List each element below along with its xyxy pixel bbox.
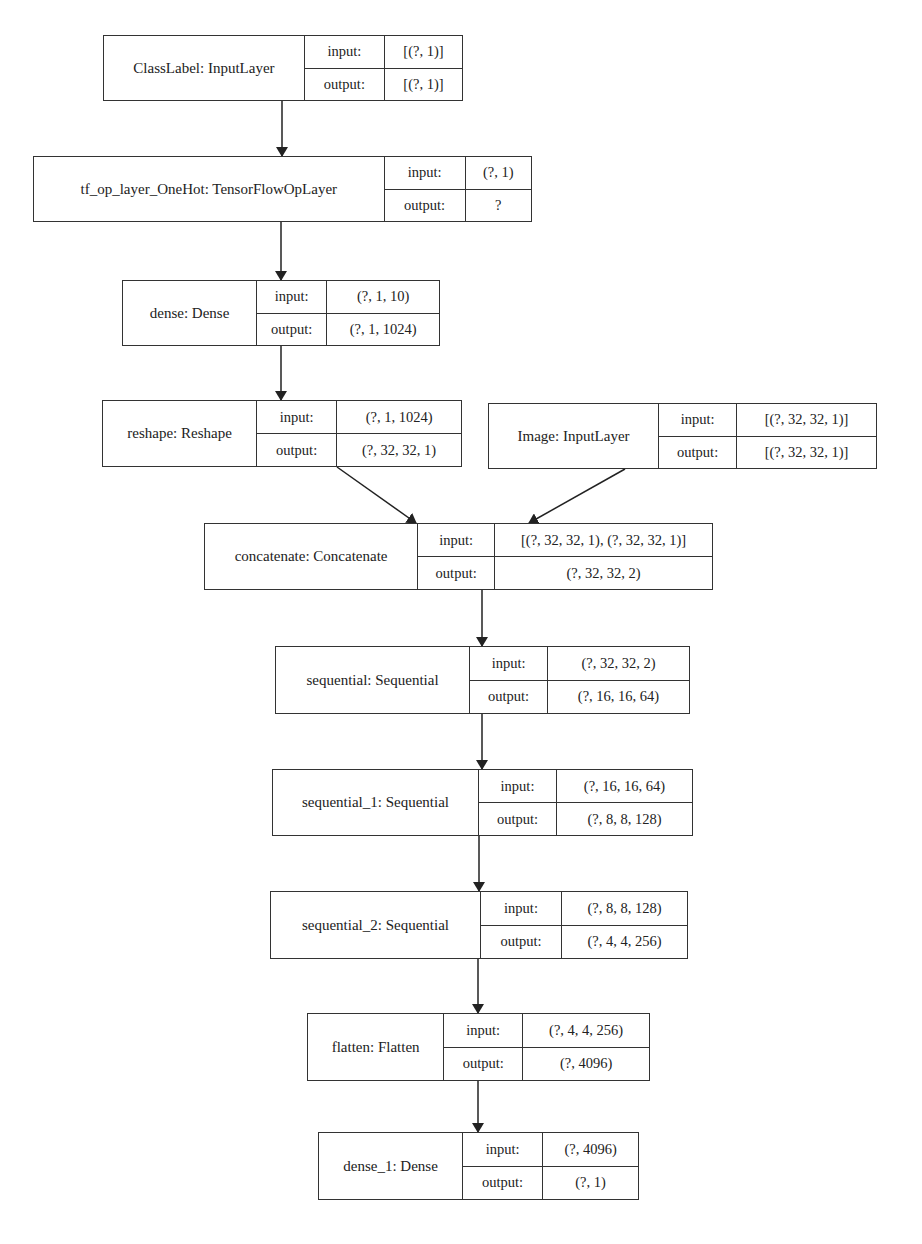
- output-label: output:: [257, 314, 327, 346]
- output-shape: (?, 1, 1024): [327, 314, 439, 346]
- layer-io-table: input: (?, 16, 16, 64) output: (?, 8, 8,…: [479, 770, 692, 835]
- output-label: output:: [470, 681, 548, 714]
- layer-io-table: input: (?, 1, 10) output: (?, 1, 1024): [257, 281, 439, 345]
- layer-io-table: input: (?, 4, 4, 256) output: (?, 4096): [444, 1014, 649, 1080]
- input-shape: [(?, 32, 32, 1)]: [737, 404, 876, 436]
- layer-node-sequential_2: sequential_2: Sequential input: (?, 8, 8…: [270, 891, 688, 959]
- input-row: input: [(?, 32, 32, 1)]: [659, 404, 876, 436]
- layer-node-dense_1: dense_1: Dense input: (?, 4096) output: …: [318, 1132, 639, 1200]
- input-label: input:: [481, 892, 562, 925]
- layer-name: ClassLabel: InputLayer: [104, 36, 305, 100]
- input-label: input:: [305, 36, 385, 68]
- layer-name: sequential_1: Sequential: [273, 770, 479, 835]
- output-shape: [(?, 32, 32, 1)]: [737, 437, 876, 469]
- input-label: input:: [257, 281, 327, 313]
- output-shape: (?, 8, 8, 128): [557, 803, 692, 835]
- input-label: input:: [659, 404, 737, 436]
- layer-node-image: Image: InputLayer input: [(?, 32, 32, 1)…: [488, 403, 877, 469]
- input-row: input: (?, 32, 32, 2): [470, 647, 689, 680]
- output-shape: (?, 4096): [523, 1048, 649, 1081]
- output-shape: (?, 32, 32, 2): [495, 557, 712, 589]
- output-label: output:: [385, 190, 466, 222]
- output-row: output: ?: [385, 189, 531, 222]
- input-row: input: [(?, 32, 32, 1), (?, 32, 32, 1)]: [418, 524, 712, 556]
- output-shape: (?, 32, 32, 1): [337, 434, 461, 466]
- input-shape: (?, 8, 8, 128): [562, 892, 687, 925]
- input-row: input: (?, 1, 10): [257, 281, 439, 313]
- input-shape: [(?, 1)]: [385, 36, 462, 68]
- layer-name: dense: Dense: [123, 281, 257, 345]
- input-shape: [(?, 32, 32, 1), (?, 32, 32, 1)]: [495, 524, 712, 556]
- input-row: input: (?, 16, 16, 64): [479, 770, 692, 802]
- input-shape: (?, 16, 16, 64): [557, 770, 692, 802]
- input-row: input: (?, 4, 4, 256): [444, 1014, 649, 1047]
- layer-io-table: input: [(?, 32, 32, 1)] output: [(?, 32,…: [659, 404, 876, 468]
- layer-node-onehot: tf_op_layer_OneHot: TensorFlowOpLayer in…: [33, 156, 532, 222]
- layer-name: concatenate: Concatenate: [205, 524, 418, 589]
- layer-node-classlabel: ClassLabel: InputLayer input: [(?, 1)] o…: [103, 35, 463, 101]
- layer-node-sequential: sequential: Sequential input: (?, 32, 32…: [275, 646, 690, 714]
- output-row: output: (?, 16, 16, 64): [470, 680, 689, 714]
- layer-io-table: input: (?, 1) output: ?: [385, 157, 531, 221]
- layer-io-table: input: [(?, 32, 32, 1), (?, 32, 32, 1)] …: [418, 524, 712, 589]
- layer-io-table: input: (?, 8, 8, 128) output: (?, 4, 4, …: [481, 892, 687, 958]
- input-label: input:: [479, 770, 557, 802]
- output-label: output:: [463, 1167, 543, 1200]
- output-shape: ?: [466, 190, 531, 222]
- layer-io-table: input: (?, 1, 1024) output: (?, 32, 32, …: [257, 401, 461, 466]
- layer-node-sequential_1: sequential_1: Sequential input: (?, 16, …: [272, 769, 693, 836]
- input-shape: (?, 32, 32, 2): [548, 647, 689, 680]
- layer-node-dense: dense: Dense input: (?, 1, 10) output: (…: [122, 280, 440, 346]
- output-shape: (?, 16, 16, 64): [548, 681, 689, 714]
- output-row: output: [(?, 1)]: [305, 68, 462, 101]
- layer-io-table: input: (?, 32, 32, 2) output: (?, 16, 16…: [470, 647, 689, 713]
- output-row: output: (?, 4096): [444, 1047, 649, 1081]
- input-label: input:: [444, 1014, 523, 1047]
- layer-name: dense_1: Dense: [319, 1133, 463, 1199]
- layer-io-table: input: (?, 4096) output: (?, 1): [463, 1133, 638, 1199]
- layer-name: sequential: Sequential: [276, 647, 470, 713]
- edge-reshape-to-concatenate: [337, 467, 416, 523]
- output-label: output:: [418, 557, 495, 589]
- input-row: input: (?, 1): [385, 157, 531, 189]
- input-row: input: (?, 1, 1024): [257, 401, 461, 433]
- input-shape: (?, 4, 4, 256): [523, 1014, 649, 1047]
- output-row: output: (?, 1): [463, 1166, 638, 1200]
- output-row: output: (?, 8, 8, 128): [479, 802, 692, 835]
- output-shape: (?, 1): [543, 1167, 638, 1200]
- output-row: output: (?, 32, 32, 1): [257, 433, 461, 466]
- layer-node-reshape: reshape: Reshape input: (?, 1, 1024) out…: [102, 400, 462, 467]
- edge-image-to-concatenate: [529, 469, 625, 523]
- input-row: input: (?, 4096): [463, 1133, 638, 1166]
- output-label: output:: [305, 69, 385, 101]
- input-label: input:: [463, 1133, 543, 1166]
- input-label: input:: [257, 401, 337, 433]
- model-diagram: ClassLabel: InputLayer input: [(?, 1)] o…: [0, 0, 922, 1244]
- layer-name: Image: InputLayer: [489, 404, 659, 468]
- input-label: input:: [470, 647, 548, 680]
- output-label: output:: [479, 803, 557, 835]
- output-row: output: [(?, 32, 32, 1)]: [659, 436, 876, 469]
- layer-name: sequential_2: Sequential: [271, 892, 481, 958]
- output-row: output: (?, 1, 1024): [257, 313, 439, 346]
- layer-node-concatenate: concatenate: Concatenate input: [(?, 32,…: [204, 523, 713, 590]
- input-row: input: [(?, 1)]: [305, 36, 462, 68]
- layer-io-table: input: [(?, 1)] output: [(?, 1)]: [305, 36, 462, 100]
- layer-node-flatten: flatten: Flatten input: (?, 4, 4, 256) o…: [307, 1013, 650, 1081]
- layer-name: flatten: Flatten: [308, 1014, 444, 1080]
- output-shape: [(?, 1)]: [385, 69, 462, 101]
- layer-name: tf_op_layer_OneHot: TensorFlowOpLayer: [34, 157, 385, 221]
- layer-name: reshape: Reshape: [103, 401, 257, 466]
- output-label: output:: [481, 926, 562, 959]
- output-label: output:: [444, 1048, 523, 1081]
- output-label: output:: [257, 434, 337, 466]
- input-shape: (?, 1): [466, 157, 531, 189]
- input-row: input: (?, 8, 8, 128): [481, 892, 687, 925]
- input-shape: (?, 1, 1024): [337, 401, 461, 433]
- input-shape: (?, 1, 10): [327, 281, 439, 313]
- output-row: output: (?, 4, 4, 256): [481, 925, 687, 959]
- input-label: input:: [418, 524, 495, 556]
- input-shape: (?, 4096): [543, 1133, 638, 1166]
- output-row: output: (?, 32, 32, 2): [418, 556, 712, 589]
- input-label: input:: [385, 157, 466, 189]
